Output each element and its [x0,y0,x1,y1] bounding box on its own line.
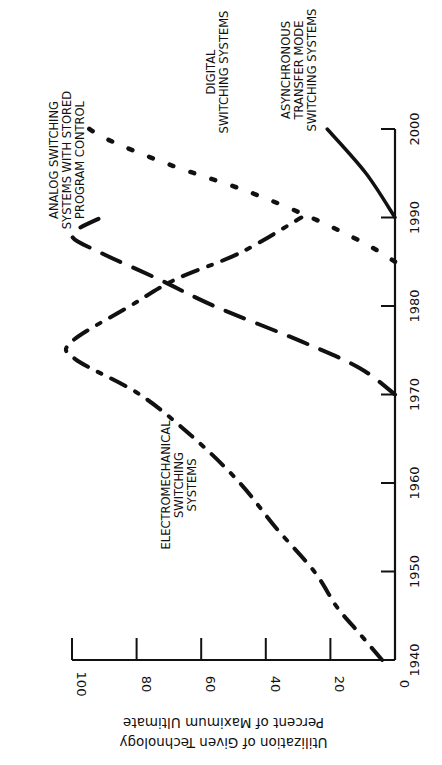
percent-tick-label: 0 [397,680,412,688]
series-label-line: SWITCHING [172,452,186,518]
series-label-line: DIGITAL [204,49,218,95]
technology-lifecycle-chart: 1940195019601970198019902000020406080100… [0,0,442,765]
series-label-line: ANALOG SWITCHING [47,101,61,219]
series-layer [66,120,395,660]
percent-tick-label: 60 [203,676,218,693]
series-label-0: ELECTROMECHANICALSWITCHINGSYSTEMS [159,420,199,550]
y-axis-title: Percent of Maximum Ultimate [123,715,324,731]
series-label-line: SYSTEMS [185,458,199,511]
series-labels: ELECTROMECHANICALSWITCHINGSYSTEMSANALOG … [47,9,319,550]
year-tick-label: 1960 [407,466,422,499]
year-tick-label: 1990 [407,201,422,234]
year-tick-label: 1940 [407,643,422,676]
series-label-line: SYSTEMS WITH STORED [60,91,74,230]
year-tick-label: 1980 [407,289,422,322]
series-line-1 [72,218,395,395]
series-label-1: ANALOG SWITCHINGSYSTEMS WITH STOREDPROGR… [47,91,87,230]
chart-canvas: 1940195019601970198019902000020406080100… [0,0,442,765]
series-label-2: DIGITALSWITCHING SYSTEMS [204,11,231,134]
series-line-3 [327,129,395,218]
series-label-line: ASYNCHRONOUS [279,21,293,119]
percent-tick-label: 80 [139,676,154,693]
percent-tick-label: 100 [74,672,89,697]
series-label-line: PROGRAM CONTROL [73,100,87,219]
year-tick-label: 1950 [407,555,422,588]
year-tick-label: 2000 [407,112,422,145]
percent-tick-label: 20 [332,676,347,693]
series-line-0 [66,218,382,661]
series-line-2 [78,120,395,262]
axes: 1940195019601970198019902000020406080100… [72,112,422,751]
y-axis-title: Utilization of Given Technology [119,735,327,751]
series-label-line: SWITCHING SYSTEMS [217,11,231,134]
percent-tick-label: 40 [268,676,283,693]
series-label-line: SWITCHING SYSTEMS [305,9,319,132]
year-tick-label: 1970 [407,378,422,411]
series-label-3: ASYNCHRONOUSTRANSFER MODESWITCHING SYSTE… [279,9,319,132]
series-label-line: TRANSFER MODE [292,21,306,121]
series-label-line: ELECTROMECHANICAL [159,420,173,550]
